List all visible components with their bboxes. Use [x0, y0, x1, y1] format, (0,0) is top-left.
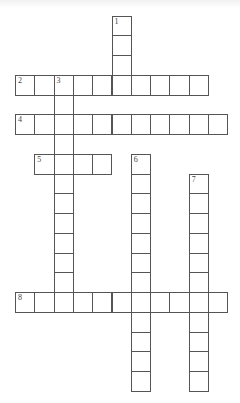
- crossword-cell[interactable]: [34, 292, 54, 313]
- clue-number: 1: [115, 17, 119, 26]
- crossword-cell[interactable]: [54, 174, 74, 195]
- crossword-cell[interactable]: [131, 75, 151, 96]
- crossword-cell[interactable]: [112, 292, 132, 313]
- crossword-cell[interactable]: [92, 292, 112, 313]
- crossword-cell[interactable]: [54, 292, 74, 313]
- crossword-cell[interactable]: [131, 233, 151, 254]
- crossword-cell[interactable]: [112, 55, 132, 76]
- crossword-cell[interactable]: [189, 371, 209, 392]
- clue-number: 7: [192, 175, 196, 184]
- crossword-grid: 12345678: [0, 0, 240, 403]
- crossword-cell[interactable]: [150, 114, 170, 135]
- crossword-cell[interactable]: [92, 154, 112, 175]
- clue-number: 6: [134, 155, 138, 164]
- crossword-cell[interactable]: [131, 312, 151, 333]
- clue-number: 5: [37, 155, 41, 164]
- clue-number: 2: [18, 76, 22, 85]
- crossword-cell[interactable]: 6: [131, 154, 151, 175]
- crossword-cell[interactable]: 2: [15, 75, 35, 96]
- crossword-cell[interactable]: [73, 292, 93, 313]
- crossword-cell[interactable]: [73, 154, 93, 175]
- crossword-cell[interactable]: [131, 114, 151, 135]
- crossword-cell[interactable]: [54, 213, 74, 234]
- crossword-cell[interactable]: [54, 114, 74, 135]
- crossword-cell[interactable]: [131, 174, 151, 195]
- crossword-cell[interactable]: [73, 114, 93, 135]
- crossword-cell[interactable]: [131, 193, 151, 214]
- crossword-cell[interactable]: [73, 75, 93, 96]
- crossword-cell[interactable]: [54, 134, 74, 155]
- crossword-cell[interactable]: [150, 292, 170, 313]
- crossword-cell[interactable]: 4: [15, 114, 35, 135]
- crossword-cell[interactable]: [131, 292, 151, 313]
- crossword-cell[interactable]: [54, 193, 74, 214]
- crossword-cell[interactable]: [54, 154, 74, 175]
- crossword-cell[interactable]: [54, 233, 74, 254]
- crossword-cell[interactable]: 7: [189, 174, 209, 195]
- crossword-cell[interactable]: [131, 332, 151, 353]
- crossword-cell[interactable]: [92, 75, 112, 96]
- crossword-cell[interactable]: 8: [15, 292, 35, 313]
- crossword-cell[interactable]: [131, 253, 151, 274]
- crossword-cell[interactable]: [189, 193, 209, 214]
- crossword-cell[interactable]: [112, 35, 132, 56]
- crossword-cell[interactable]: [189, 213, 209, 234]
- crossword-cell[interactable]: [208, 292, 228, 313]
- crossword-cell[interactable]: [189, 75, 209, 96]
- crossword-cell[interactable]: [131, 272, 151, 293]
- crossword-cell[interactable]: [92, 114, 112, 135]
- crossword-cell[interactable]: [208, 114, 228, 135]
- crossword-cell[interactable]: [112, 114, 132, 135]
- crossword-cell[interactable]: [131, 351, 151, 372]
- clue-number: 8: [18, 293, 22, 302]
- crossword-cell[interactable]: [131, 371, 151, 392]
- clue-number: 3: [57, 76, 61, 85]
- crossword-cell[interactable]: 3: [54, 75, 74, 96]
- crossword-cell[interactable]: [189, 233, 209, 254]
- crossword-cell[interactable]: [189, 114, 209, 135]
- crossword-cell[interactable]: [189, 253, 209, 274]
- crossword-cell[interactable]: [34, 75, 54, 96]
- crossword-cell[interactable]: [189, 292, 209, 313]
- crossword-cell[interactable]: [169, 75, 189, 96]
- crossword-cell[interactable]: 1: [112, 16, 132, 37]
- crossword-cell[interactable]: [34, 114, 54, 135]
- crossword-cell[interactable]: [189, 332, 209, 353]
- crossword-cell[interactable]: [189, 351, 209, 372]
- crossword-cell[interactable]: 5: [34, 154, 54, 175]
- crossword-cell[interactable]: [54, 95, 74, 116]
- crossword-cell[interactable]: [169, 114, 189, 135]
- crossword-cell[interactable]: [112, 75, 132, 96]
- crossword-cell[interactable]: [169, 292, 189, 313]
- crossword-cell[interactable]: [189, 272, 209, 293]
- crossword-cell[interactable]: [54, 272, 74, 293]
- crossword-cell[interactable]: [54, 253, 74, 274]
- crossword-cell[interactable]: [150, 75, 170, 96]
- crossword-cell[interactable]: [131, 213, 151, 234]
- crossword-cell[interactable]: [189, 312, 209, 333]
- clue-number: 4: [18, 115, 22, 124]
